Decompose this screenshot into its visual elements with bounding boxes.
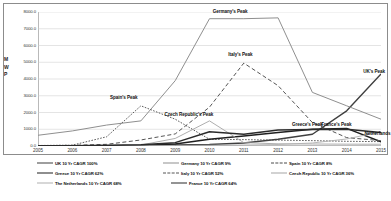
legend-label: Italy 10 Yr CAGR 52%: [181, 171, 223, 176]
series-line-germany: [38, 18, 381, 135]
y-axis-tick-label: 5000.0: [2, 60, 36, 64]
y-axis-tick-label: 6000.0: [2, 43, 36, 47]
legend-row: The Netherlands 10 Yr CAGR 68%France 10 …: [3, 178, 388, 188]
x-axis-tick-label: 2011: [239, 148, 248, 153]
x-axis-tick-label: 2006: [67, 148, 77, 153]
legend-item-spain[interactable]: Spain 10 Yr CAGR 8%: [271, 158, 332, 168]
legend-label: France 10 Yr CAGR 64%: [189, 181, 237, 186]
legend-row: UK 10 Yr CAGR 100%Germany 10 Yr CAGR 9%S…: [3, 158, 388, 168]
legend-item-czech-republic[interactable]: Czech Republic 10 Yr CAGR 36%: [271, 168, 354, 178]
annotation-label: Netherlands: [365, 130, 391, 135]
y-axis-tick-label: 4000.0: [2, 77, 36, 81]
chart-container: MWP 0.01000.02000.03000.04000.05000.0600…: [0, 0, 391, 201]
annotation-label: UK's Peak: [363, 68, 385, 73]
legend-swatch-icon: [163, 170, 179, 176]
legend-item-uk[interactable]: UK 10 Yr CAGR 100%: [37, 158, 97, 168]
legend-label: Czech Republic 10 Yr CAGR 36%: [289, 171, 354, 176]
x-axis-tick-label: 2005: [33, 148, 43, 153]
annotation-label: Greece's Peak: [292, 122, 323, 127]
y-axis-tick-label: 0.0: [2, 144, 36, 148]
legend-label: The Netherlands 10 Yr CAGR 68%: [55, 181, 122, 186]
series-line-uk: [38, 74, 381, 146]
legend-label: UK 10 Yr CAGR 100%: [55, 161, 97, 166]
y-axis-tick-label: 1000.0: [2, 127, 36, 131]
series-line-france: [38, 129, 381, 146]
chart-legend: UK 10 Yr CAGR 100%Germany 10 Yr CAGR 9%S…: [3, 158, 388, 198]
legend-item-germany[interactable]: Germany 10 Yr CAGR 9%: [163, 158, 231, 168]
x-axis-tick-label: 2009: [170, 148, 180, 153]
series-line-italy: [38, 63, 381, 146]
annotation-label: Germany's Peak: [213, 9, 248, 14]
legend-label: Spain 10 Yr CAGR 8%: [289, 161, 332, 166]
legend-swatch-icon: [271, 160, 287, 166]
x-axis-tick-label: 2008: [136, 148, 146, 153]
y-axis-tick-labels: 0.01000.02000.03000.04000.05000.06000.07…: [0, 12, 36, 146]
legend-swatch-icon: [37, 160, 53, 166]
legend-item-greece[interactable]: Greece 10 Yr CAGR 62%: [37, 168, 103, 178]
legend-swatch-icon: [37, 180, 53, 186]
annotation-label: Spain's Peak: [110, 94, 138, 99]
annotation-label: Czech Republic's Peak: [165, 112, 214, 117]
y-axis-tick-label: 7000.0: [2, 27, 36, 31]
y-axis-tick-label: 2000.0: [2, 110, 36, 114]
legend-item-the-netherlands[interactable]: The Netherlands 10 Yr CAGR 68%: [37, 178, 122, 188]
legend-item-france[interactable]: France 10 Yr CAGR 64%: [171, 178, 237, 188]
x-axis-tick-label: 2013: [307, 148, 317, 153]
legend-label: Greece 10 Yr CAGR 62%: [55, 171, 103, 176]
legend-item-italy[interactable]: Italy 10 Yr CAGR 52%: [163, 168, 223, 178]
x-axis-tick-label: 2010: [205, 148, 215, 153]
legend-swatch-icon: [163, 160, 179, 166]
x-axis-tick-labels: 2005200620072008200920102011201220132014…: [38, 148, 381, 158]
x-axis-tick-label: 2014: [342, 148, 352, 153]
legend-row: Greece 10 Yr CAGR 62%Italy 10 Yr CAGR 52…: [3, 168, 388, 178]
legend-swatch-icon: [37, 170, 53, 176]
annotation-label: Italy's Peak: [228, 51, 252, 56]
legend-swatch-icon: [271, 170, 287, 176]
annotation-label: France's Peak: [321, 122, 351, 127]
x-axis-tick-label: 2012: [273, 148, 283, 153]
x-axis-tick-label: 2015: [376, 148, 386, 153]
legend-label: Germany 10 Yr CAGR 9%: [181, 161, 231, 166]
x-axis-tick-label: 2007: [102, 148, 112, 153]
legend-swatch-icon: [171, 180, 187, 186]
y-axis-tick-label: 3000.0: [2, 94, 36, 98]
y-axis-tick-label: 8000.0: [2, 10, 36, 14]
